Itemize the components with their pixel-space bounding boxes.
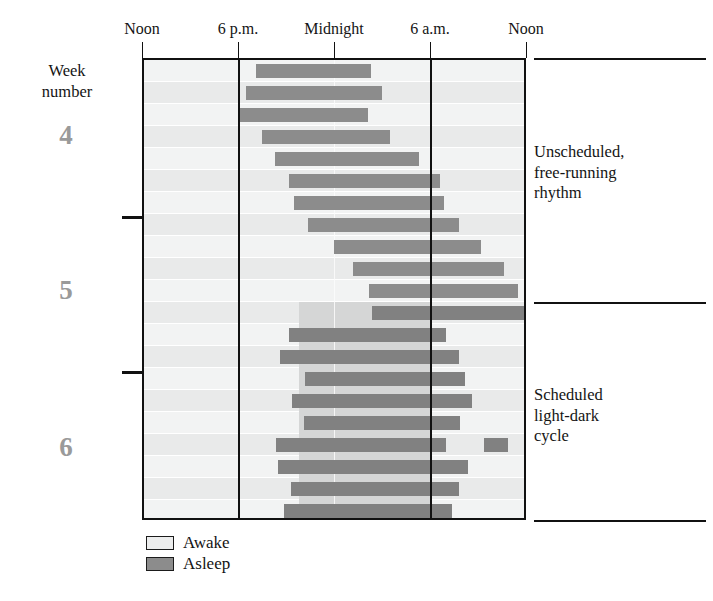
legend-item-awake: Awake	[146, 534, 230, 552]
sleep-bar	[278, 460, 468, 474]
legend-label-awake: Awake	[183, 534, 230, 552]
sleep-bar	[262, 130, 390, 144]
legend-item-asleep: Asleep	[146, 555, 230, 573]
sleep-bar	[484, 438, 508, 452]
legend-swatch-asleep	[146, 557, 174, 571]
section-rule-0	[534, 58, 706, 60]
axis-tick-mark-1	[238, 42, 239, 58]
sleep-bar	[284, 504, 452, 518]
week-number-caption: Week number	[12, 60, 122, 102]
axis-tick-label-1: 6 p.m.	[218, 20, 258, 38]
week-boundary-tick-0	[122, 216, 144, 219]
week-number-6: 6	[59, 433, 73, 461]
sleep-bar	[289, 328, 446, 342]
section-rule-2	[534, 520, 706, 522]
sleep-bar	[291, 482, 459, 496]
axis-tick-label-0: Noon	[124, 20, 160, 38]
axis-tick-label-2: Midnight	[304, 20, 364, 38]
sleep-bar	[276, 438, 446, 452]
actogram-plot	[142, 58, 526, 520]
sleep-bar	[280, 350, 459, 364]
axis-tick-mark-3	[430, 42, 431, 58]
axis-tick-label-4: Noon	[508, 20, 544, 38]
week-caption-line2: number	[12, 81, 122, 102]
week-caption-line1: Week	[12, 60, 122, 81]
sleep-bar	[305, 372, 465, 386]
sleep-bar	[334, 240, 481, 254]
sleep-bar	[292, 394, 471, 408]
axis-tick-label-3: 6 a.m.	[410, 20, 450, 38]
axis-tick-mark-2	[334, 42, 335, 58]
sleep-bar	[246, 86, 382, 100]
week-boundary-tick-1	[122, 371, 144, 374]
hour-gridline-0	[238, 60, 240, 518]
sleep-bar	[294, 196, 444, 210]
actogram-figure: Noon6 p.m.Midnight6 a.m.Noon Week number…	[0, 0, 713, 601]
sleep-bar	[275, 152, 419, 166]
sleep-bar	[372, 306, 526, 320]
sleep-bar	[289, 174, 439, 188]
sleep-bar	[240, 108, 368, 122]
legend-swatch-awake	[146, 536, 174, 550]
sleep-bar	[304, 416, 461, 430]
sleep-bar	[256, 64, 371, 78]
section-annotation-1: Scheduled light-dark cycle	[534, 385, 603, 447]
sleep-bar	[369, 284, 518, 298]
axis-tick-mark-0	[142, 42, 143, 58]
sleep-bar	[308, 218, 458, 232]
hour-gridline-1	[430, 60, 432, 518]
section-rule-1	[534, 302, 706, 304]
sleep-bar	[353, 262, 503, 276]
legend-label-asleep: Asleep	[183, 555, 230, 573]
axis-tick-mark-4	[526, 42, 527, 58]
week-number-4: 4	[59, 121, 73, 149]
section-annotation-0: Unscheduled, free-running rhythm	[534, 142, 624, 204]
week-number-5: 5	[59, 276, 73, 304]
